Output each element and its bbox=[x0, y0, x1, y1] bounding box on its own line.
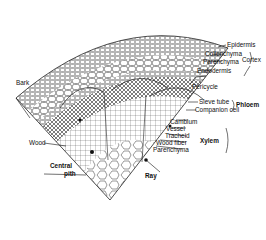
label-cambium: Cambium bbox=[170, 118, 197, 125]
label-collenchyma: Collenchyma bbox=[205, 50, 242, 57]
label-endodermis: Endodermis bbox=[197, 67, 231, 74]
label-xylem-parenchyma: Parenchyma bbox=[153, 146, 189, 153]
label-vessel: Vessel bbox=[166, 125, 185, 132]
label-phloem: Phloem bbox=[236, 101, 259, 108]
label-tracheid: Tracheid bbox=[165, 132, 190, 139]
label-cortex-parenchyma: Parenchyma bbox=[203, 58, 239, 65]
label-central-pith-line2: pith bbox=[64, 170, 76, 177]
label-cortex: Cortex bbox=[242, 56, 261, 63]
label-bark: Bark bbox=[16, 79, 29, 86]
label-xylem: Xylem bbox=[200, 137, 219, 144]
label-wood: Wood bbox=[29, 139, 46, 146]
label-wood-fiber: Wood fiber bbox=[156, 139, 187, 146]
label-sieve-tube: Sieve tube bbox=[199, 98, 229, 105]
label-companion-cell: Companion cell bbox=[195, 106, 239, 113]
label-ray: Ray bbox=[145, 172, 157, 179]
label-pericycle: Pericycle bbox=[192, 83, 218, 90]
label-central-pith-line1: Central bbox=[50, 162, 72, 169]
label-epidermis: Epidermis bbox=[227, 41, 255, 48]
